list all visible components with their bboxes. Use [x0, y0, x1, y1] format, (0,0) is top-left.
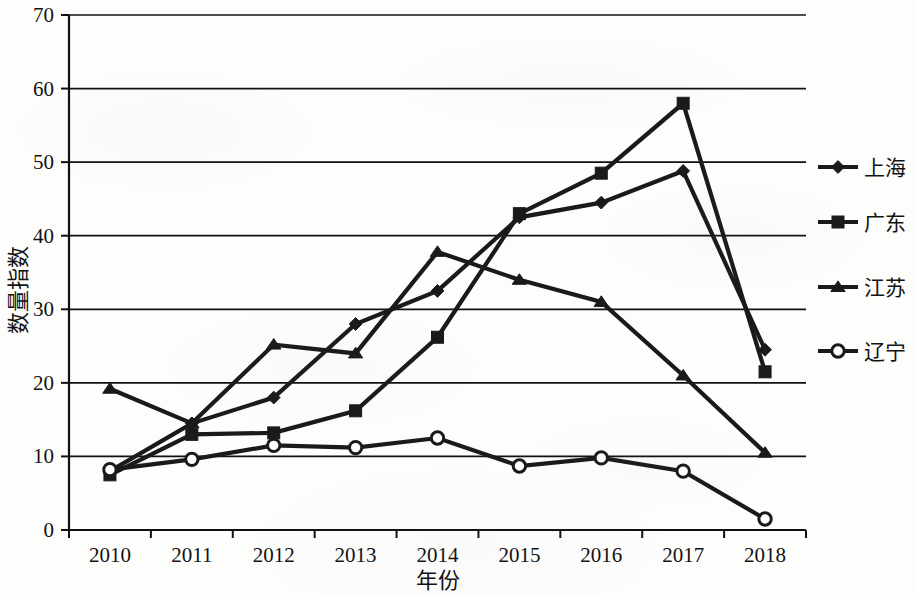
data-point-marker — [349, 441, 361, 453]
data-point-marker — [595, 196, 608, 209]
data-point-marker — [268, 439, 280, 451]
y-tick-label: 60 — [33, 77, 54, 101]
data-point-marker — [759, 513, 771, 525]
data-point-marker — [677, 97, 689, 109]
data-point-marker — [268, 427, 280, 439]
legend-item-2[interactable]: 广东 — [818, 211, 906, 235]
x-tick-label: 2017 — [662, 543, 704, 567]
x-tick-label: 2016 — [580, 543, 622, 567]
x-tick-label: 2014 — [417, 543, 460, 567]
y-tick-label: 70 — [33, 3, 54, 27]
x-tick-label: 2018 — [744, 543, 786, 567]
data-point-marker — [677, 465, 689, 477]
data-point-marker — [430, 246, 444, 257]
data-point-marker — [595, 452, 607, 464]
data-point-marker — [186, 453, 198, 465]
data-point-marker — [513, 208, 525, 220]
x-tick-label: 2015 — [498, 543, 540, 567]
y-tick-labels-group: 010203040506070 — [33, 3, 54, 542]
legend-item-3[interactable]: 江苏 — [818, 276, 906, 300]
data-point-marker — [513, 460, 525, 472]
y-tick-label: 20 — [33, 371, 54, 395]
legend-item-1[interactable]: 上海 — [818, 156, 906, 180]
x-tick-labels-group: 201020112012201320142015201620172018 — [89, 543, 786, 567]
data-point-marker — [104, 463, 116, 475]
x-tick-label: 2010 — [89, 543, 131, 567]
y-tick-label: 40 — [33, 224, 54, 248]
legend-marker-icon — [832, 161, 845, 174]
gridlines-group — [69, 15, 806, 530]
series-line — [110, 171, 765, 471]
legend-label: 江苏 — [864, 276, 906, 300]
y-axis-title: 数量指数 — [6, 246, 31, 334]
chart-figure: 010203040506070 201020112012201320142015… — [0, 0, 917, 594]
legend-label: 辽宁 — [864, 340, 906, 364]
data-point-marker — [350, 405, 362, 417]
x-tick-label: 2012 — [253, 543, 295, 567]
data-point-marker — [186, 428, 198, 440]
data-point-marker — [432, 331, 444, 343]
y-tick-label: 0 — [44, 518, 55, 542]
chart-legend: 上海广东江苏辽宁 — [818, 156, 906, 364]
data-point-marker — [759, 366, 771, 378]
x-tick-label: 2011 — [171, 543, 212, 567]
data-point-marker — [595, 167, 607, 179]
series-line — [110, 252, 765, 453]
legend-label: 广东 — [864, 211, 906, 235]
legend-label: 上海 — [864, 156, 906, 180]
series-4 — [104, 432, 772, 525]
axes-group — [61, 15, 806, 538]
line-chart-canvas: 010203040506070 201020112012201320142015… — [0, 0, 917, 594]
y-tick-label: 30 — [33, 297, 54, 321]
series-line — [110, 438, 765, 519]
y-tick-label: 50 — [33, 150, 54, 174]
data-point-marker — [431, 432, 443, 444]
x-axis-title: 年份 — [416, 568, 460, 593]
series-3 — [103, 246, 773, 457]
legend-marker-icon — [832, 345, 844, 357]
data-point-marker — [677, 165, 690, 178]
x-tick-label: 2013 — [335, 543, 377, 567]
legend-item-4[interactable]: 辽宁 — [818, 340, 906, 364]
legend-marker-icon — [832, 216, 844, 228]
data-point-marker — [103, 383, 117, 394]
y-tick-label: 10 — [33, 444, 54, 468]
